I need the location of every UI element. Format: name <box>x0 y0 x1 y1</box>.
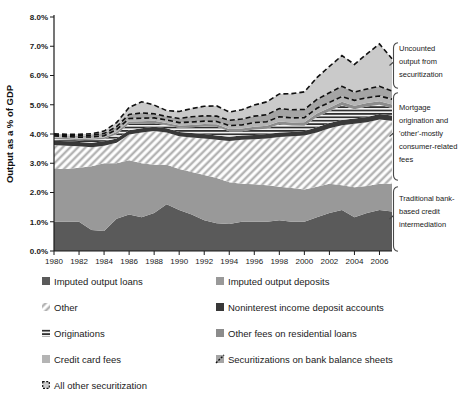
legend-item-other: Other <box>42 302 214 312</box>
legend-item-noninterest: Noninterest income deposit accounts <box>216 302 456 312</box>
y-tick-label: 0.0% <box>30 247 48 256</box>
x-tick-label: 1990 <box>170 257 188 266</box>
legend-item-deposits: Imputed output deposits <box>216 276 456 286</box>
x-tick-label: 1996 <box>245 257 263 266</box>
y-axis-title: Output as a % of GDP <box>4 84 15 183</box>
creditcard-swatch <box>42 355 50 363</box>
legend-item-resloans: Other fees on residential loans <box>216 328 456 338</box>
annotation-uncounted-output: Uncounted output from securitization <box>399 42 447 81</box>
securitization-output-figure: 0.0%1.0%2.0%3.0%4.0%5.0%6.0%7.0%8.0%1980… <box>0 0 464 404</box>
resloans-swatch <box>216 329 224 337</box>
y-tick-label: 6.0% <box>30 71 48 80</box>
x-tick-label: 2000 <box>295 257 313 266</box>
y-tick-label: 8.0% <box>30 13 48 22</box>
legend-label: Imputed output loans <box>54 276 143 287</box>
legend-label: Securitizations on bank balance sheets <box>228 354 393 365</box>
y-tick-label: 3.0% <box>30 159 48 168</box>
y-tick-label: 1.0% <box>30 218 48 227</box>
legend: Imputed output loansImputed output depos… <box>42 276 456 390</box>
x-tick-label: 1982 <box>70 257 88 266</box>
legend-label: All other securitization <box>54 380 147 391</box>
x-tick-label: 2004 <box>346 257 364 266</box>
y-tick-label: 7.0% <box>30 42 48 51</box>
other-swatch <box>42 303 50 311</box>
legend-item-sec_bank: Securitizations on bank balance sheets <box>216 354 456 364</box>
legend-item-originations: Originations <box>42 328 214 338</box>
x-tick-label: 1994 <box>220 257 238 266</box>
legend-label: Other fees on residential loans <box>228 328 357 339</box>
deposits-swatch <box>216 277 224 285</box>
legend-item-loans: Imputed output loans <box>42 276 214 286</box>
x-tick-label: 1986 <box>120 257 138 266</box>
originations-swatch <box>42 329 50 337</box>
x-tick-label: 1980 <box>45 257 63 266</box>
legend-label: Other <box>54 302 78 313</box>
all_other_sec-swatch <box>42 381 50 389</box>
x-tick-label: 1992 <box>195 257 213 266</box>
x-tick-label: 2006 <box>371 257 389 266</box>
legend-item-creditcard: Credit card fees <box>42 354 214 364</box>
legend-item-all_other_sec: All other securitization <box>42 380 214 390</box>
legend-label: Originations <box>54 328 105 339</box>
legend-label: Imputed output deposits <box>228 276 329 287</box>
annotation-mortgage-origination: Mortgage origination and 'other'-mostly … <box>399 101 463 166</box>
y-tick-label: 4.0% <box>30 130 48 139</box>
x-tick-label: 1998 <box>270 257 288 266</box>
y-tick-label: 5.0% <box>30 101 48 110</box>
legend-label: Noninterest income deposit accounts <box>228 302 384 313</box>
x-tick-label: 1988 <box>145 257 163 266</box>
loans-swatch <box>42 277 50 285</box>
x-tick-label: 1984 <box>95 257 113 266</box>
x-tick-label: 2002 <box>321 257 339 266</box>
legend-label: Credit card fees <box>54 354 121 365</box>
annotation-traditional-intermediation: Traditional bank-based credit intermedia… <box>399 192 463 231</box>
y-tick-label: 2.0% <box>30 188 48 197</box>
sec_bank-swatch <box>216 355 224 363</box>
noninterest-swatch <box>216 303 224 311</box>
